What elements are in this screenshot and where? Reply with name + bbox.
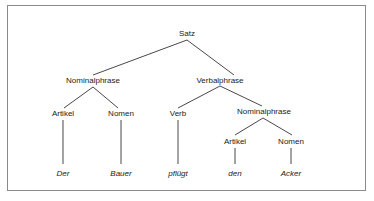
node-nominalphrase-2: Nominalphrase [237,107,291,117]
node-satz: Satz [179,29,195,39]
node-nominalphrase-1: Nominalphrase [66,76,120,86]
node-artikel-1: Artikel [52,109,74,119]
word-der: Der [57,169,70,179]
node-artikel-2: Artikel [224,137,246,147]
word-pfluegt: pflügt [168,169,188,179]
node-nomen-2: Nomen [278,137,304,147]
node-verb: Verb [170,109,186,119]
word-den: den [228,169,241,179]
node-verbalphrase: Verbalphrase [196,76,243,86]
word-bauer: Bauer [110,169,131,179]
word-acker: Acker [281,169,301,179]
node-nomen-1: Nomen [108,109,134,119]
